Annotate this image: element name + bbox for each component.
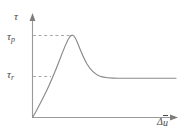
x-axis-title-delta: Δ — [157, 116, 163, 127]
shear-stress-slip-figure: τ τp τr Δu — [0, 0, 189, 136]
x-axis-title: Δu — [157, 117, 168, 127]
y-axis-title: τ — [14, 11, 18, 22]
y-axis — [30, 13, 36, 118]
x-axis-title-variable: u — [163, 115, 168, 128]
y-tick-residual-subscript: r — [11, 73, 14, 82]
shear-stress-curve — [33, 35, 177, 117]
y-tick-peak-subscript: p — [11, 35, 15, 44]
y-axis-title-symbol: τ — [14, 10, 18, 22]
y-tick-label-peak-strength: τp — [7, 31, 15, 44]
y-tick-label-residual-strength: τr — [7, 69, 14, 82]
